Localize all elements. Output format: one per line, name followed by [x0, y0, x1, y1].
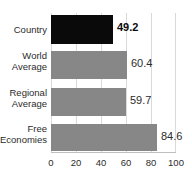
value-label-world-average: 60.4: [131, 57, 152, 69]
value-label-free-economies: 84.6: [161, 130, 182, 142]
bar-free-economies: [51, 124, 157, 151]
category-label-free-economies: Free Economies: [0, 124, 47, 145]
category-label-regional-average-line2: Average: [0, 99, 47, 110]
xtick-label-60: 60: [114, 157, 138, 168]
bar-chart: Country World Average Regional Average F…: [0, 0, 192, 177]
chart-title: [0, 0, 192, 4]
category-label-country-line1: Country: [14, 24, 47, 35]
bar-world-average: [51, 51, 127, 79]
plot-area: [51, 13, 176, 152]
bar-country: [51, 15, 113, 44]
category-label-world-average: World Average: [0, 51, 47, 72]
category-label-regional-average: Regional Average: [0, 88, 47, 109]
value-label-regional-average: 59.7: [130, 94, 151, 106]
category-label-free-economies-line2: Economies: [0, 135, 47, 146]
category-label-world-average-line1: World: [0, 51, 47, 62]
category-label-free-economies-line1: Free: [0, 124, 47, 135]
xtick-label-40: 40: [89, 157, 113, 168]
bar-regional-average: [51, 88, 126, 116]
category-label-world-average-line2: Average: [0, 62, 47, 73]
category-label-regional-average-line1: Regional: [0, 88, 47, 99]
x-axis-line: [51, 152, 176, 153]
value-label-country: 49.2: [117, 21, 138, 33]
xtick-label-100: 100: [164, 157, 188, 168]
category-label-country: Country: [0, 25, 47, 36]
xtick-label-0: 0: [39, 157, 63, 168]
xtick-label-20: 20: [64, 157, 88, 168]
xtick-label-80: 80: [139, 157, 163, 168]
